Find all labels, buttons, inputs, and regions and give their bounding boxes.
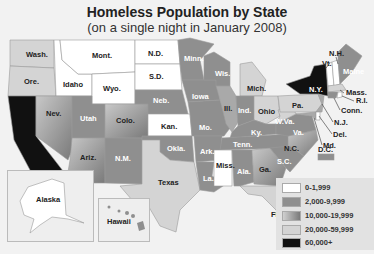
legend-item-0: 0-1,999 [282, 182, 330, 193]
label-wash: Wash. [26, 50, 48, 59]
label-nm: N.M. [115, 154, 131, 163]
label-ariz: Ariz. [80, 153, 96, 162]
label-minn: Minn. [184, 54, 204, 63]
label-maine: Maine [343, 67, 364, 76]
state-del [316, 112, 320, 120]
label-tenn: Tenn. [233, 140, 252, 149]
legend-label: 2,000-9,999 [305, 197, 345, 206]
label-nev: Nev. [46, 109, 61, 118]
label-alaska: Alaska [36, 195, 60, 204]
label-idaho: Idaho [63, 80, 83, 89]
label-ark: Ark. [200, 147, 215, 156]
label-iowa: Iowa [192, 92, 209, 101]
state-ri [337, 92, 342, 98]
label-mich: Mich. [247, 84, 266, 93]
legend-swatch [282, 225, 301, 235]
label-va: Va. [293, 128, 304, 137]
label-nj: N.J. [334, 118, 348, 127]
label-ohio: Ohio [258, 107, 275, 116]
label-ri: R.I. [356, 96, 368, 105]
label-la: La. [203, 174, 214, 183]
label-nd: N.D. [148, 49, 163, 58]
label-utah: Utah [80, 114, 97, 123]
legend-label: 10,000-19,999 [305, 211, 353, 220]
legend-swatch [282, 183, 301, 193]
label-sc: S.C. [277, 157, 292, 166]
label-hawaii: Hawaii [107, 217, 131, 226]
legend-swatch [282, 238, 301, 248]
label-kan: Kan. [161, 122, 177, 131]
label-del: Del. [333, 130, 347, 139]
legend-label: 0-1,999 [305, 183, 330, 192]
legend-label: 60,000+ [305, 238, 332, 247]
label-nc: N.C. [284, 144, 299, 153]
label-mo: Mo. [199, 123, 212, 132]
label-ore: Ore. [24, 77, 39, 86]
label-sd: S.D. [149, 72, 164, 81]
label-okla: Okla. [167, 144, 185, 153]
alaska-shape [8, 171, 93, 241]
label-mont: Mont. [92, 51, 112, 60]
legend-item-2: 10,000-19,999 [282, 210, 353, 221]
label-texas: Texas [158, 178, 179, 187]
hawaii-inset: Hawaii [98, 198, 150, 242]
label-wis: Wis. [215, 69, 230, 78]
label-colo: Colo. [116, 116, 135, 125]
label-ny: N.Y. [309, 85, 323, 94]
legend-item-3: 20,000-59,999 [282, 224, 353, 235]
label-pa: Pa. [292, 101, 303, 110]
legend-swatch [282, 211, 301, 221]
map-legend: 0-1,999 2,000-9,999 10,000-19,999 20,000… [276, 178, 374, 250]
label-miss: Miss. [216, 161, 235, 170]
label-ga: Ga. [259, 165, 271, 174]
state-dc [318, 154, 334, 160]
label-wyo: Wyo. [103, 84, 121, 93]
legend-swatch [282, 197, 301, 207]
label-ill: Ill. [224, 104, 232, 113]
legend-item-4: 60,000+ [282, 237, 332, 248]
label-wva: W.Va. [275, 117, 295, 126]
label-ky: Ky. [251, 128, 262, 137]
label-neb: Neb. [153, 96, 169, 105]
label-ind: Ind. [238, 106, 251, 115]
alaska-inset: Alaska [7, 170, 94, 242]
label-conn: Conn. [341, 106, 362, 115]
legend-label: 20,000-59,999 [305, 225, 353, 234]
label-dc: D.C. [318, 145, 333, 154]
label-ala: Ala. [237, 167, 251, 176]
label-nh: N.H. [329, 49, 344, 58]
state-conn [328, 92, 338, 98]
legend-item-1: 2,000-9,999 [282, 196, 345, 207]
